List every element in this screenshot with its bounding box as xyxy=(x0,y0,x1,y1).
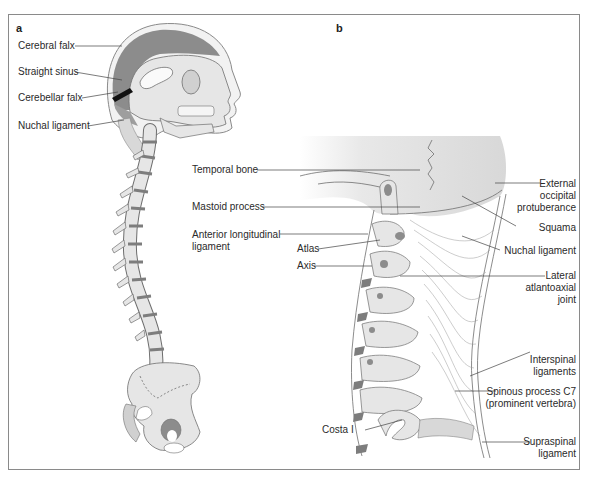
label-nuchal-ligament-a: Nuchal ligament xyxy=(18,120,90,132)
label-atlas: Atlas xyxy=(297,243,319,255)
label-cerebellar-falx: Cerebellar falx xyxy=(18,92,82,104)
label-straight-sinus: Straight sinus xyxy=(18,66,79,78)
label-line-2: ligament xyxy=(538,448,576,459)
panel-letter-b: b xyxy=(336,22,343,34)
label-mastoid-process: Mastoid process xyxy=(192,201,265,213)
label-nuchal-ligament-b: Nuchal ligament xyxy=(504,245,576,257)
label-line-1: Lateral xyxy=(545,270,576,281)
label-spinous-process-c7: Spinous process C7 (prominent vertebra) xyxy=(485,386,576,410)
label-costa-i: Costa I xyxy=(322,424,354,436)
label-line-1: Supraspinal xyxy=(523,436,576,447)
label-line-2: atlantoaxial xyxy=(525,282,576,293)
label-axis: Axis xyxy=(297,260,316,272)
label-cerebral-falx: Cerebral falx xyxy=(18,40,75,52)
label-line-1: External xyxy=(539,178,576,189)
label-squama: Squama xyxy=(539,222,576,234)
label-line-2: ligament xyxy=(192,241,230,252)
panel-letter-a: a xyxy=(16,22,22,34)
label-supraspinal-ligament: Supraspinal ligament xyxy=(523,436,576,460)
label-line-3: protuberance xyxy=(517,202,576,213)
label-line-2: (prominent vertebra) xyxy=(485,398,576,409)
label-interspinal-ligaments: Interspinal ligaments xyxy=(530,354,576,378)
label-line-3: joint xyxy=(558,294,576,305)
label-line-2: occipital xyxy=(540,190,576,201)
label-line-1: Anterior longitudinal xyxy=(192,229,280,240)
label-line-1: Interspinal xyxy=(530,354,576,365)
label-line-1: Spinous process C7 xyxy=(487,386,577,397)
label-line-2: ligaments xyxy=(533,366,576,377)
label-external-occipital-protuberance: External occipital protuberance xyxy=(517,178,576,214)
label-temporal-bone: Temporal bone xyxy=(192,164,258,176)
label-anterior-longitudinal-ligament: Anterior longitudinal ligament xyxy=(192,229,280,253)
label-lateral-atlantoaxial-joint: Lateral atlantoaxial joint xyxy=(525,270,576,306)
